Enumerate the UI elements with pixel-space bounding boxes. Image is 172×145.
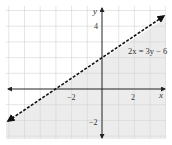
y-axis-label: y	[92, 6, 97, 16]
shaded-region	[6, 18, 166, 139]
equation-label: 2x = 3y − 6	[128, 46, 167, 56]
tick-x-neg2: −2	[67, 93, 76, 102]
tick-y-neg2: −2	[89, 118, 98, 127]
coordinate-graph: y x 4 −2 −2 2 2x = 3y − 6	[0, 0, 172, 145]
tick-y-4: 4	[94, 22, 98, 31]
tick-x-2: 2	[131, 93, 135, 102]
x-axis-label: x	[158, 90, 163, 100]
